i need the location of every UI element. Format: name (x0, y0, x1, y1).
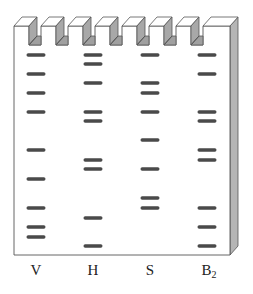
dna-band-v (27, 53, 46, 56)
dna-band-h (84, 244, 103, 247)
dna-band-v (27, 206, 46, 209)
dna-band-v (27, 235, 46, 238)
dna-band-b2 (198, 244, 217, 247)
lane-label-text: V (31, 262, 42, 278)
dna-band-s (141, 196, 160, 199)
dna-band-s (141, 53, 160, 56)
dna-band-v (27, 148, 46, 151)
dna-band-b2 (198, 119, 217, 122)
dna-band-s (141, 138, 160, 141)
dna-band-b2 (198, 148, 217, 151)
dna-band-h (84, 158, 103, 161)
lane-label-v: V (21, 262, 51, 278)
dna-band-v (27, 110, 46, 113)
lane-label-s: S (135, 262, 165, 278)
gel-diagram (0, 0, 253, 294)
gel-body (14, 17, 238, 255)
dna-band-b2 (198, 206, 217, 209)
dna-band-s (141, 110, 160, 113)
dna-band-v (27, 177, 46, 180)
dna-band-b2 (198, 110, 217, 113)
dna-band-b2 (198, 72, 217, 75)
dna-band-h (84, 81, 103, 84)
lane-label-text: B (201, 262, 211, 278)
dna-band-s (141, 206, 160, 209)
dna-band-h (84, 110, 103, 113)
lane-label-text: S (146, 262, 154, 278)
dna-band-b2 (198, 225, 217, 228)
dna-band-h (84, 62, 103, 65)
dna-band-s (141, 91, 160, 94)
dna-band-h (84, 216, 103, 219)
lane-label-subscript: 2 (212, 269, 217, 280)
dna-band-b2 (198, 53, 217, 56)
dna-band-v (27, 91, 46, 94)
lane-label-h: H (78, 262, 108, 278)
gel-front-face (14, 26, 230, 255)
dna-band-h (84, 119, 103, 122)
dna-band-b2 (198, 158, 217, 161)
gel-side-panel (230, 17, 238, 255)
dna-band-s (141, 81, 160, 84)
dna-band-h (84, 167, 103, 170)
lane-label-b2: B2 (194, 262, 224, 278)
dna-band-v (27, 225, 46, 228)
dna-band-s (141, 167, 160, 170)
dna-band-v (27, 72, 46, 75)
dna-band-h (84, 53, 103, 56)
lane-label-text: H (88, 262, 99, 278)
